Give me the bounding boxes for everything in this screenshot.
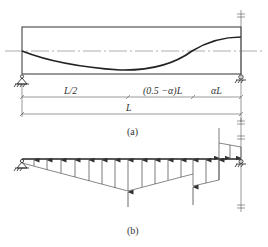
diagram-canvas: [0, 0, 268, 247]
roller-support-b-icon: [235, 160, 246, 168]
tendon-profile: [22, 37, 241, 70]
roller-support-icon: [235, 75, 246, 83]
caption-b: (b): [127, 226, 139, 236]
reference-line-b: [237, 118, 245, 212]
downward-load-arrows: [219, 128, 241, 158]
caption-a: (a): [127, 127, 138, 137]
beam-elevation: [22, 27, 241, 74]
dim-label-middle: (0.5 −α)L: [143, 86, 182, 96]
dim-label-alpha: αL: [211, 86, 222, 96]
dim-label-total: L: [126, 103, 132, 113]
concentrated-forces-up: [128, 187, 193, 207]
pin-support-icon: [14, 75, 29, 87]
upward-load-arrows: [34, 160, 219, 191]
dim-label-half-span: L/2: [64, 86, 77, 96]
pin-support-b-icon: [14, 159, 29, 171]
upward-load-outline: [22, 159, 219, 191]
